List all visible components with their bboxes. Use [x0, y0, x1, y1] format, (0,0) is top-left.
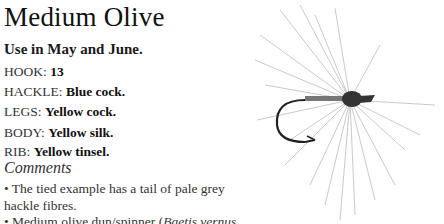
usage-note: Use in May and June. [4, 41, 143, 58]
spec-body: BODY: Yellow silk. [4, 125, 113, 141]
spec-hackle: HACKLE: Blue cock. [4, 84, 125, 100]
fly-illustration [255, 0, 444, 224]
spec-rib: RIB: Yellow tinsel. [4, 144, 109, 160]
comments-heading: Comments [4, 159, 72, 177]
comment-1-line1: • The tied example has a tail of pale gr… [4, 181, 225, 197]
page-title: Medium Olive [4, 2, 165, 33]
comment-1-line2: hackle fibres. [4, 198, 77, 214]
spec-legs: LEGS: Yellow cock. [4, 104, 116, 120]
comment-2-line1: • Medium olive dun/spinner (Baetis vernu… [4, 214, 240, 224]
spec-hook: HOOK: 13 [4, 64, 64, 80]
